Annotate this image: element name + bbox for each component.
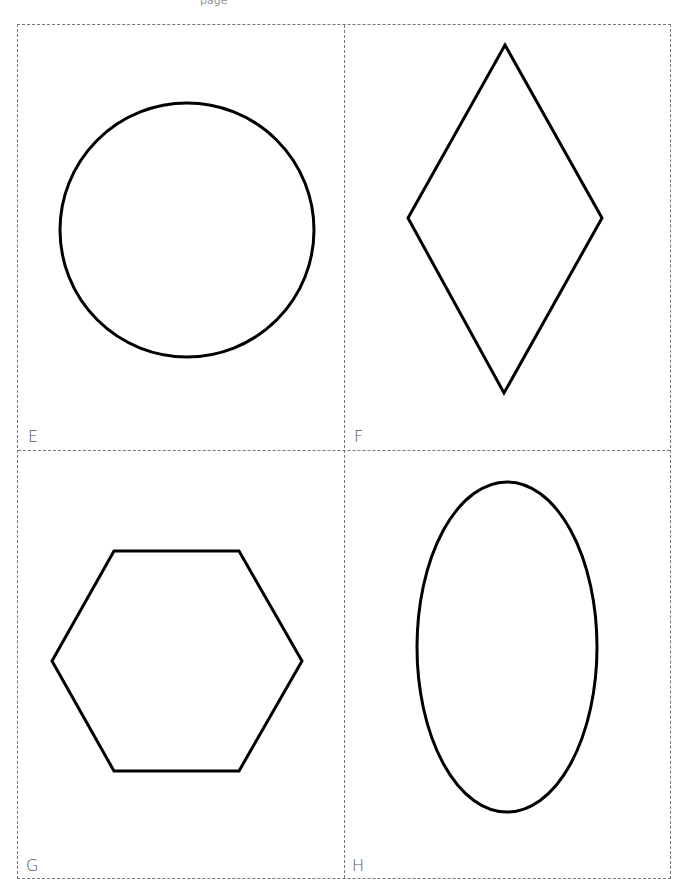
card-e [60,103,314,357]
card-label-h: H [352,858,364,874]
circle-icon [60,103,314,357]
ellipse-icon [417,482,597,812]
worksheet-page: page E F G H [0,0,687,891]
card-h [417,482,597,812]
shapes-layer [0,0,687,891]
diamond-icon [408,45,602,393]
hexagon-icon [52,551,302,771]
card-g [52,551,302,771]
card-f [408,45,602,393]
card-label-f: F [354,429,363,445]
card-label-g: G [26,858,38,874]
card-label-e: E [28,429,38,445]
